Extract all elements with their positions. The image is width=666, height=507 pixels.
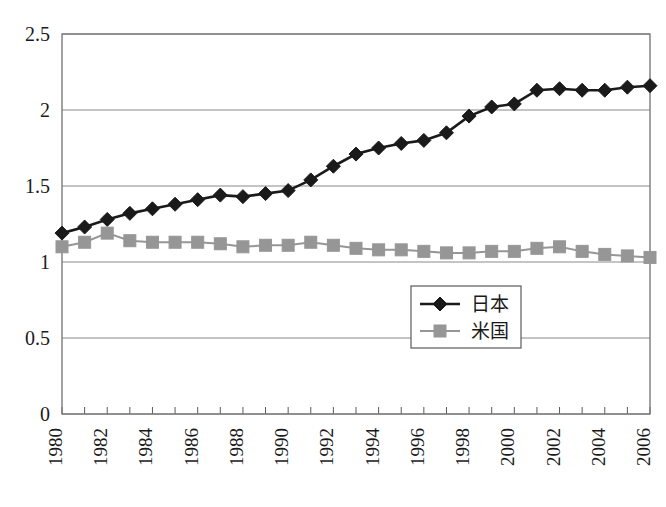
data-point-marker [530, 83, 544, 97]
chart-page: 00.511.522.5 198019821984198619881990199… [0, 0, 666, 507]
data-point-marker [575, 83, 589, 97]
legend-marker-square [434, 325, 446, 337]
x-tick-label: 1986 [181, 428, 202, 466]
data-point-marker [56, 241, 68, 253]
data-point-marker [78, 220, 92, 234]
data-point-marker [305, 236, 317, 248]
data-point-marker [101, 227, 113, 239]
data-point-marker [507, 97, 521, 111]
data-point-marker [326, 159, 340, 173]
data-point-marker [598, 83, 612, 97]
data-point-marker [79, 236, 91, 248]
data-point-marker [282, 239, 294, 251]
data-point-marker [327, 239, 339, 251]
x-tick-label: 1994 [362, 428, 383, 467]
data-point-marker [485, 100, 499, 114]
line-chart-figure: 00.511.522.5 198019821984198619881990199… [0, 0, 666, 507]
data-point-marker [554, 241, 566, 253]
y-axis-tick-labels: 00.511.522.5 [25, 23, 50, 425]
data-point-marker [508, 245, 520, 257]
data-point-marker [146, 236, 158, 248]
data-series-layer [55, 79, 657, 264]
x-tick-label: 1992 [316, 428, 337, 466]
data-point-marker [576, 245, 588, 257]
data-point-marker [486, 245, 498, 257]
data-point-marker [191, 193, 205, 207]
y-tick-label: 1 [40, 251, 50, 273]
y-tick-label: 0.5 [25, 327, 50, 349]
x-tick-label: 2004 [588, 428, 609, 467]
data-point-marker [145, 202, 159, 216]
data-point-marker [260, 239, 272, 251]
data-point-marker [237, 241, 249, 253]
data-point-marker [440, 247, 452, 259]
data-point-marker [621, 250, 633, 262]
data-point-marker [259, 187, 273, 201]
data-point-marker [55, 226, 69, 240]
data-point-marker [213, 188, 227, 202]
data-point-marker [531, 242, 543, 254]
data-point-marker [123, 206, 137, 220]
x-tick-label: 1980 [45, 428, 66, 466]
data-point-marker [418, 245, 430, 257]
data-point-marker [350, 242, 362, 254]
series-usa [56, 227, 656, 263]
x-tick-label: 1996 [407, 428, 428, 466]
y-tick-label: 1.5 [25, 175, 50, 197]
data-point-marker [644, 251, 656, 263]
x-tick-label: 1998 [452, 428, 473, 466]
data-point-marker [643, 79, 657, 93]
series-japan [55, 79, 657, 240]
data-point-marker [168, 197, 182, 211]
chart-svg: 00.511.522.5 198019821984198619881990199… [0, 0, 666, 507]
data-point-marker [373, 244, 385, 256]
x-axis-tick-labels: 1980198219841986198819901992199419961998… [45, 428, 654, 467]
data-point-marker [169, 236, 181, 248]
x-tick-label: 2000 [497, 428, 518, 466]
x-tick-label: 1984 [135, 428, 156, 467]
data-point-marker [395, 244, 407, 256]
x-tick-label: 1982 [90, 428, 111, 466]
x-axis-ticks [62, 407, 650, 414]
legend-item-label: 米国 [471, 320, 509, 342]
data-point-marker [192, 236, 204, 248]
legend-item-label: 日本 [471, 293, 509, 315]
x-tick-label: 2002 [543, 428, 564, 466]
data-point-marker [463, 247, 475, 259]
data-point-marker [553, 82, 567, 96]
y-tick-label: 2 [40, 99, 50, 121]
data-point-marker [394, 136, 408, 150]
data-point-marker [417, 133, 431, 147]
x-tick-label: 1988 [226, 428, 247, 466]
data-point-marker [620, 80, 634, 94]
data-point-marker [124, 235, 136, 247]
data-point-marker [214, 238, 226, 250]
y-tick-label: 0 [40, 403, 50, 425]
data-point-marker [349, 147, 363, 161]
data-point-marker [372, 141, 386, 155]
data-point-marker [100, 212, 114, 226]
x-tick-label: 1990 [271, 428, 292, 466]
data-point-marker [599, 248, 611, 260]
x-tick-label: 2006 [633, 428, 654, 466]
y-tick-label: 2.5 [25, 23, 50, 45]
data-point-marker [304, 173, 318, 187]
data-point-marker [236, 190, 250, 204]
chart-legend: 日本米国 [411, 286, 521, 348]
